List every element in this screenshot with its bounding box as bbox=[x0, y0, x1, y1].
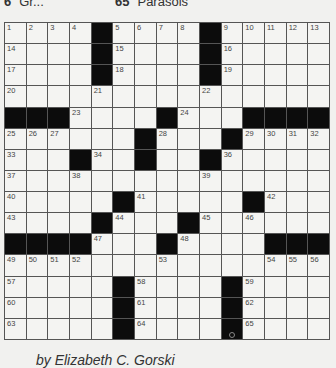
grid-cell[interactable] bbox=[92, 298, 113, 318]
grid-cell[interactable]: 25 bbox=[5, 129, 26, 149]
grid-cell[interactable]: 3 bbox=[48, 23, 69, 43]
grid-cell[interactable] bbox=[157, 192, 178, 212]
grid-cell[interactable] bbox=[265, 86, 286, 106]
grid-cell[interactable] bbox=[265, 44, 286, 64]
grid-cell[interactable] bbox=[70, 129, 91, 149]
grid-cell[interactable] bbox=[48, 86, 69, 106]
grid-cell[interactable] bbox=[70, 213, 91, 233]
grid-cell[interactable]: 38 bbox=[70, 171, 91, 191]
grid-cell[interactable] bbox=[92, 108, 113, 128]
grid-cell[interactable] bbox=[243, 234, 264, 254]
grid-cell[interactable] bbox=[113, 108, 134, 128]
grid-cell[interactable]: 31 bbox=[287, 129, 308, 149]
grid-cell[interactable]: 20 bbox=[5, 86, 26, 106]
grid-cell[interactable] bbox=[70, 44, 91, 64]
grid-cell[interactable]: 65 bbox=[243, 319, 264, 339]
grid-cell[interactable]: 30 bbox=[265, 129, 286, 149]
grid-cell[interactable] bbox=[157, 171, 178, 191]
grid-cell[interactable]: 49 bbox=[5, 255, 26, 275]
grid-cell[interactable]: 8 bbox=[178, 23, 199, 43]
grid-cell[interactable] bbox=[157, 277, 178, 297]
grid-cell[interactable] bbox=[48, 319, 69, 339]
grid-cell[interactable] bbox=[135, 44, 156, 64]
grid-cell[interactable] bbox=[287, 65, 308, 85]
grid-cell[interactable] bbox=[135, 108, 156, 128]
grid-cell[interactable] bbox=[27, 298, 48, 318]
grid-cell[interactable]: 48 bbox=[178, 234, 199, 254]
grid-cell[interactable] bbox=[27, 65, 48, 85]
grid-cell[interactable] bbox=[48, 171, 69, 191]
grid-cell[interactable] bbox=[287, 277, 308, 297]
grid-cell[interactable] bbox=[200, 129, 221, 149]
grid-cell[interactable]: 52 bbox=[70, 255, 91, 275]
grid-cell[interactable] bbox=[113, 150, 134, 170]
grid-cell[interactable] bbox=[200, 255, 221, 275]
grid-cell[interactable] bbox=[92, 255, 113, 275]
grid-cell[interactable] bbox=[157, 65, 178, 85]
grid-cell[interactable]: 11 bbox=[265, 23, 286, 43]
grid-cell[interactable]: 15 bbox=[113, 44, 134, 64]
grid-cell[interactable] bbox=[135, 234, 156, 254]
grid-cell[interactable]: 22 bbox=[200, 86, 221, 106]
grid-cell[interactable] bbox=[287, 213, 308, 233]
grid-cell[interactable] bbox=[308, 65, 329, 85]
grid-cell[interactable] bbox=[157, 150, 178, 170]
grid-cell[interactable]: 1 bbox=[5, 23, 26, 43]
grid-cell[interactable]: 4 bbox=[70, 23, 91, 43]
grid-cell[interactable] bbox=[265, 277, 286, 297]
grid-cell[interactable] bbox=[308, 298, 329, 318]
grid-cell[interactable] bbox=[27, 150, 48, 170]
grid-cell[interactable] bbox=[222, 255, 243, 275]
grid-cell[interactable]: 12 bbox=[287, 23, 308, 43]
grid-cell[interactable] bbox=[265, 150, 286, 170]
grid-cell[interactable] bbox=[27, 319, 48, 339]
grid-cell[interactable]: 32 bbox=[308, 129, 329, 149]
grid-cell[interactable] bbox=[308, 319, 329, 339]
grid-cell[interactable] bbox=[178, 171, 199, 191]
grid-cell[interactable] bbox=[70, 192, 91, 212]
grid-cell[interactable]: 50 bbox=[27, 255, 48, 275]
grid-cell[interactable] bbox=[157, 298, 178, 318]
grid-cell[interactable] bbox=[157, 44, 178, 64]
grid-cell[interactable]: 36 bbox=[222, 150, 243, 170]
grid-cell[interactable]: 28 bbox=[157, 129, 178, 149]
grid-cell[interactable]: 9 bbox=[222, 23, 243, 43]
grid-cell[interactable] bbox=[308, 171, 329, 191]
grid-cell[interactable] bbox=[70, 65, 91, 85]
grid-cell[interactable] bbox=[135, 255, 156, 275]
grid-cell[interactable] bbox=[200, 319, 221, 339]
grid-cell[interactable]: 17 bbox=[5, 65, 26, 85]
grid-cell[interactable] bbox=[92, 129, 113, 149]
grid-cell[interactable] bbox=[287, 44, 308, 64]
grid-cell[interactable] bbox=[135, 171, 156, 191]
grid-cell[interactable] bbox=[113, 86, 134, 106]
grid-cell[interactable] bbox=[27, 192, 48, 212]
grid-cell[interactable] bbox=[222, 108, 243, 128]
grid-cell[interactable]: 54 bbox=[265, 255, 286, 275]
grid-cell[interactable] bbox=[27, 213, 48, 233]
grid-cell[interactable] bbox=[157, 319, 178, 339]
grid-cell[interactable] bbox=[70, 298, 91, 318]
grid-cell[interactable] bbox=[135, 86, 156, 106]
grid-cell[interactable]: 39 bbox=[200, 171, 221, 191]
grid-cell[interactable]: 23 bbox=[70, 108, 91, 128]
grid-cell[interactable] bbox=[222, 234, 243, 254]
grid-cell[interactable] bbox=[48, 213, 69, 233]
grid-cell[interactable] bbox=[265, 213, 286, 233]
grid-cell[interactable] bbox=[243, 44, 264, 64]
grid-cell[interactable] bbox=[265, 298, 286, 318]
grid-cell[interactable] bbox=[48, 44, 69, 64]
grid-cell[interactable] bbox=[48, 298, 69, 318]
grid-cell[interactable] bbox=[265, 65, 286, 85]
grid-cell[interactable] bbox=[27, 171, 48, 191]
grid-cell[interactable]: 58 bbox=[135, 277, 156, 297]
grid-cell[interactable] bbox=[265, 319, 286, 339]
grid-cell[interactable]: 64 bbox=[135, 319, 156, 339]
grid-cell[interactable]: 18 bbox=[113, 65, 134, 85]
grid-cell[interactable] bbox=[70, 277, 91, 297]
grid-cell[interactable] bbox=[222, 213, 243, 233]
grid-cell[interactable] bbox=[113, 171, 134, 191]
grid-cell[interactable] bbox=[308, 192, 329, 212]
grid-cell[interactable]: 13 bbox=[308, 23, 329, 43]
grid-cell[interactable] bbox=[157, 213, 178, 233]
